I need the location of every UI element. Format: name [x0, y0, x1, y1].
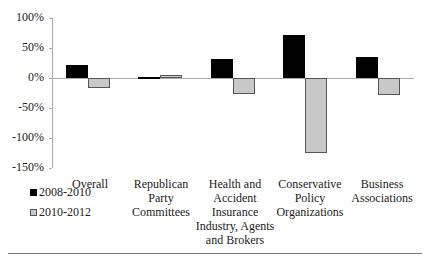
legend-swatch-grey [30, 209, 37, 216]
bar-2008-2010 [138, 77, 160, 79]
legend-item-2010-2012: 2010-2012 [30, 205, 91, 220]
caption-divider [8, 253, 422, 254]
bar-2008-2010 [66, 65, 88, 78]
category-label-business: BusinessAssociations [337, 177, 427, 205]
y-tick-label: 0% [0, 70, 44, 85]
legend-label: 2008-2010 [39, 185, 91, 200]
y-tick-mark [49, 108, 52, 109]
figure-caption-cropped [8, 260, 408, 266]
legend-label: 2010-2012 [39, 205, 91, 220]
y-tick-label: 50% [0, 40, 44, 55]
bar-2010-2012 [305, 78, 327, 153]
y-tick-mark [49, 18, 52, 19]
y-tick-label: -150% [0, 160, 44, 175]
y-tick-mark [49, 138, 52, 139]
legend-swatch-black [30, 189, 37, 196]
bar-2008-2010 [283, 35, 305, 78]
bar-2010-2012 [160, 75, 182, 78]
y-tick-label: -50% [0, 100, 44, 115]
y-tick-mark [49, 48, 52, 49]
bar-2008-2010 [356, 57, 378, 78]
y-axis-line [52, 18, 53, 168]
y-tick-mark [49, 168, 52, 169]
bar-2010-2012 [88, 78, 110, 88]
bar-2010-2012 [233, 78, 255, 94]
bar-2008-2010 [211, 59, 233, 78]
legend-item-2008-2010: 2008-2010 [30, 185, 91, 200]
y-tick-label: 100% [0, 10, 44, 25]
bar-2010-2012 [378, 78, 400, 95]
y-tick-label: -100% [0, 130, 44, 145]
